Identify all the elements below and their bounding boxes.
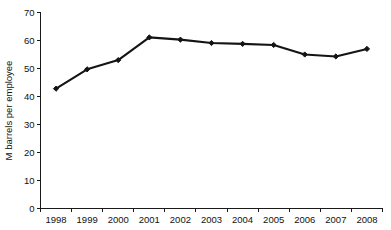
- y-tick-label: 60: [24, 35, 35, 46]
- y-tick-label: 20: [24, 147, 35, 158]
- x-tick-label: 2003: [201, 214, 222, 225]
- x-tick-label: 2004: [232, 214, 253, 225]
- y-tick-label: 70: [24, 7, 35, 18]
- x-tick-label: 2000: [108, 214, 129, 225]
- y-tick-label: 30: [24, 119, 35, 130]
- y-tick-label: 40: [24, 91, 35, 102]
- x-tick-label: 1998: [45, 214, 66, 225]
- chart-page: 010203040506070 199819992000200120022003…: [0, 0, 391, 230]
- y-tick-label: 0: [29, 203, 34, 214]
- chart-background: [0, 0, 391, 230]
- x-tick-label: 2006: [294, 214, 315, 225]
- x-tick-label: 2008: [356, 214, 377, 225]
- x-tick-label: 2002: [170, 214, 191, 225]
- x-tick-label: 2005: [263, 214, 284, 225]
- y-axis-title: M barrels per employee: [3, 61, 14, 161]
- x-tick-label: 2001: [139, 214, 160, 225]
- line-chart: 010203040506070 199819992000200120022003…: [0, 0, 391, 230]
- x-tick-label: 2007: [325, 214, 346, 225]
- x-tick-label: 1999: [77, 214, 98, 225]
- y-tick-label: 50: [24, 63, 35, 74]
- y-tick-label: 10: [24, 175, 35, 186]
